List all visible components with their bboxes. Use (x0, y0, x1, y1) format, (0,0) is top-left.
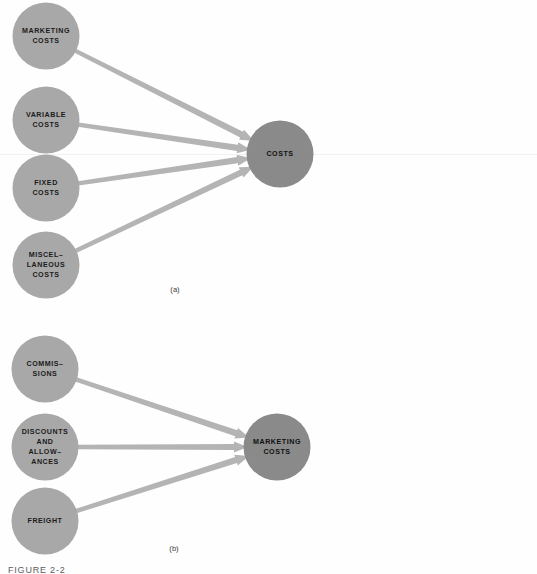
node-label-miscellaneous-costs: MISCEL– (29, 251, 64, 259)
figure-caption: FIGURE 2-2 (8, 565, 66, 574)
node-label-fixed-costs: FIXED (34, 179, 58, 187)
node-marketing-costs-target[interactable]: MARKETINGCOSTS (244, 414, 311, 481)
arrow-layer (74, 49, 254, 514)
node-label-discounts-and-allowances: ALLOW– (28, 448, 61, 456)
node-label-variable-costs: COSTS (32, 121, 59, 129)
node-label-costs: COSTS (266, 150, 293, 158)
node-label-marketing-costs-target: COSTS (263, 448, 290, 456)
arrow-commissions-to-marketing-costs-target (75, 377, 249, 438)
node-label-discounts-and-allowances: ANCES (31, 458, 59, 466)
node-commissions[interactable]: COMMIS–SIONS (12, 336, 79, 403)
node-marketing-costs[interactable]: MARKETINGCOSTS (13, 3, 80, 70)
node-label-discounts-and-allowances: AND (36, 438, 53, 446)
diagram-canvas: MARKETINGCOSTSVARIABLECOSTSFIXEDCOSTSMIS… (0, 0, 537, 574)
node-label-commissions: SIONS (33, 370, 58, 378)
node-discounts-and-allowances[interactable]: DISCOUNTSANDALLOW–ANCES (12, 414, 79, 481)
node-layer: MARKETINGCOSTSVARIABLECOSTSFIXEDCOSTSMIS… (12, 3, 314, 555)
node-label-miscellaneous-costs: LANEOUS (27, 261, 66, 269)
node-miscellaneous-costs[interactable]: MISCEL–LANEOUSCOSTS (13, 232, 80, 299)
node-label-commissions: COMMIS– (27, 360, 64, 368)
node-fixed-costs[interactable]: FIXEDCOSTS (13, 155, 80, 222)
arrow-freight-to-marketing-costs-target (75, 455, 249, 513)
panel-caption-layer: (a)(b) (169, 285, 180, 553)
node-label-variable-costs: VARIABLE (26, 111, 66, 119)
node-label-marketing-costs-target: MARKETING (253, 438, 301, 446)
figure-container: MARKETINGCOSTSVARIABLECOSTSFIXEDCOSTSMIS… (0, 0, 537, 574)
node-costs[interactable]: COSTS (247, 121, 314, 188)
node-label-fixed-costs: COSTS (32, 189, 59, 197)
node-label-discounts-and-allowances: DISCOUNTS (22, 428, 69, 436)
node-label-freight: FREIGHT (28, 517, 63, 525)
node-freight[interactable]: FREIGHT (12, 488, 79, 555)
node-label-marketing-costs: COSTS (32, 37, 59, 45)
node-variable-costs[interactable]: VARIABLECOSTS (13, 87, 80, 154)
panel-caption-panel-b: (b) (169, 544, 179, 553)
node-label-miscellaneous-costs: COSTS (32, 271, 59, 279)
panel-caption-panel-a: (a) (170, 285, 180, 294)
arrow-discounts-and-allowances-to-marketing-costs-target (78, 441, 248, 452)
node-label-marketing-costs: MARKETING (22, 27, 70, 35)
